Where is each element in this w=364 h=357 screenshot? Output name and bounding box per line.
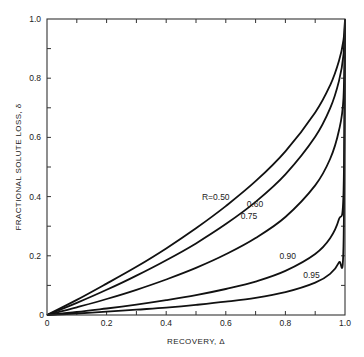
y-tick-label: 0 [39, 310, 44, 320]
curve-090 [47, 19, 345, 315]
curve-095 [47, 19, 345, 315]
x-tick-label: 0.8 [279, 318, 291, 328]
curve-labels: R=0.500.600.750.900.95 [202, 192, 320, 280]
curve-r050 [47, 19, 345, 315]
x-tick-label: 1.0 [339, 318, 351, 328]
curve-label: R=0.50 [202, 192, 230, 202]
y-tick-label: 0.8 [29, 73, 41, 83]
y-tick-label: 0.2 [29, 251, 41, 261]
curve-label: 0.75 [241, 211, 258, 221]
y-tick-label: 1.0 [29, 14, 41, 24]
curve-label: 0.60 [247, 199, 264, 209]
axis-ticks [47, 19, 345, 315]
curve-label: 0.90 [279, 251, 296, 261]
x-tick-label: 0.6 [220, 318, 232, 328]
curve-060 [47, 19, 345, 315]
x-tick-label: 0.4 [160, 318, 172, 328]
curves [47, 19, 345, 315]
curve-label: 0.95 [303, 270, 320, 280]
y-tick-label: 0.4 [29, 192, 41, 202]
x-tick-label: 0.2 [101, 318, 113, 328]
y-tick-label: 0.6 [29, 132, 41, 142]
y-axis-title: FRACTIONAL SOLUTE LOSS, δ [14, 103, 23, 230]
plot-frame [47, 19, 345, 315]
x-tick-label: 0 [45, 318, 50, 328]
curve-075 [47, 19, 345, 315]
tick-labels: 00.20.40.60.81.000.20.40.60.81.0 [29, 14, 351, 328]
recovery-vs-solute-loss-chart: 00.20.40.60.81.000.20.40.60.81.0 R=0.500… [0, 0, 364, 357]
x-axis-title: RECOVERY, Δ [167, 337, 225, 346]
